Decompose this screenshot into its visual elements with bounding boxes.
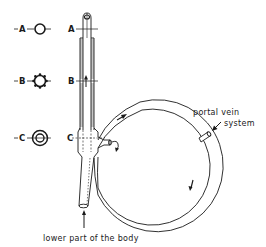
section-label-c: C — [19, 134, 26, 143]
junction-c — [72, 128, 112, 157]
lower-tube — [79, 157, 94, 208]
portal-vein-branch — [199, 131, 212, 142]
portal-vein-pointer-icon — [212, 122, 221, 131]
circulation-loop — [94, 100, 223, 232]
portal-vein-system-label: system — [224, 120, 255, 128]
portal-vein-label: portal vein — [193, 109, 239, 117]
outflow-arrow-icon — [112, 141, 119, 152]
section-label-a: A — [19, 25, 26, 34]
catheter-tube — [76, 13, 98, 130]
tube-marker-b: B — [68, 77, 75, 86]
loop-flow-arrow-right-icon — [189, 180, 194, 191]
tube-marker-a: A — [68, 25, 75, 34]
inflow-arrow-icon — [82, 210, 86, 228]
tube-marker-c: C — [67, 134, 74, 143]
lower-body-label: lower part of the body — [43, 235, 139, 243]
section-label-b: B — [19, 77, 26, 86]
